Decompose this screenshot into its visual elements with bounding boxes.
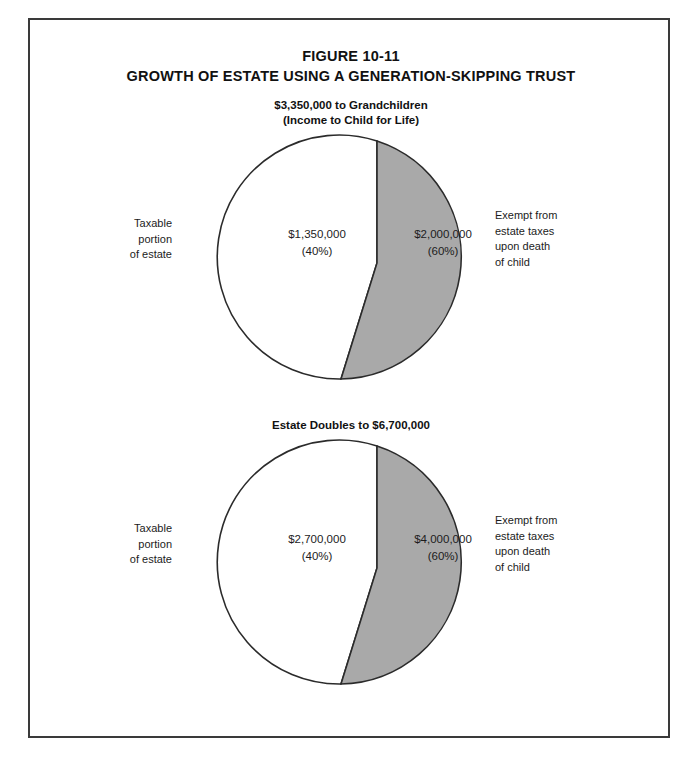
chart-1-caption: $3,350,000 to Grandchildren (Income to C… <box>30 98 672 128</box>
chart-2-right-callout: Exempt from estate taxes upon death of c… <box>495 513 557 575</box>
chart-1-caption-line2: (Income to Child for Life) <box>30 113 672 128</box>
chart-2-right-callout-line4: of child <box>495 560 557 576</box>
chart-1-left-callout-line3: of estate <box>130 247 172 263</box>
chart-2-right-callout-line2: estate taxes <box>495 529 557 545</box>
figure-number-label: FIGURE 10-11 <box>30 46 672 66</box>
chart-1-left-callout-line1: Taxable <box>130 216 172 232</box>
chart-block-2: Estate Doubles to $6,700,000 Taxable por… <box>30 418 672 699</box>
chart-2-exempt-amount: $4,000,000 <box>388 531 498 548</box>
chart-2-exempt-percent: (60%) <box>388 548 498 565</box>
chart-2-exempt-value-label: $4,000,000 (60%) <box>388 531 498 565</box>
chart-2-left-callout-line1: Taxable <box>130 521 172 537</box>
chart-1-right-callout-line2: estate taxes <box>495 224 557 240</box>
chart-1-taxable-amount: $1,350,000 <box>262 226 372 243</box>
figure-heading: FIGURE 10-11 GROWTH OF ESTATE USING A GE… <box>30 46 672 86</box>
chart-2-left-callout: Taxable portion of estate <box>130 521 172 568</box>
chart-2-taxable-percent: (40%) <box>262 548 372 565</box>
chart-2-right-callout-line3: upon death <box>495 544 557 560</box>
chart-2-taxable-value-label: $2,700,000 (40%) <box>262 531 372 565</box>
chart-2-left-callout-line3: of estate <box>130 552 172 568</box>
chart-1-taxable-percent: (40%) <box>262 243 372 260</box>
chart-1-left-callout: Taxable portion of estate <box>130 216 172 263</box>
chart-2-caption-line1: Estate Doubles to $6,700,000 <box>30 418 672 433</box>
chart-1-exempt-amount: $2,000,000 <box>388 226 498 243</box>
chart-block-1: $3,350,000 to Grandchildren (Income to C… <box>30 98 672 394</box>
chart-1-pie-svg <box>201 128 501 394</box>
chart-1-pie-area: Taxable portion of estate Exempt from es… <box>30 128 672 394</box>
chart-1-exempt-percent: (60%) <box>388 243 498 260</box>
chart-1-exempt-value-label: $2,000,000 (60%) <box>388 226 498 260</box>
chart-2-taxable-amount: $2,700,000 <box>262 531 372 548</box>
chart-1-right-callout-line1: Exempt from <box>495 208 557 224</box>
figure-title: GROWTH OF ESTATE USING A GENERATION-SKIP… <box>30 66 672 86</box>
chart-2-right-callout-line1: Exempt from <box>495 513 557 529</box>
chart-2-caption: Estate Doubles to $6,700,000 <box>30 418 672 433</box>
chart-1-taxable-value-label: $1,350,000 (40%) <box>262 226 372 260</box>
chart-2-pie-area: Taxable portion of estate Exempt from es… <box>30 433 672 699</box>
chart-1-caption-line1: $3,350,000 to Grandchildren <box>30 98 672 113</box>
chart-2-pie-svg <box>201 433 501 699</box>
chart-1-right-callout-line4: of child <box>495 255 557 271</box>
chart-1-right-callout: Exempt from estate taxes upon death of c… <box>495 208 557 270</box>
chart-2-left-callout-line2: portion <box>130 537 172 553</box>
chart-1-left-callout-line2: portion <box>130 232 172 248</box>
figure-frame: FIGURE 10-11 GROWTH OF ESTATE USING A GE… <box>28 18 670 738</box>
chart-1-right-callout-line3: upon death <box>495 239 557 255</box>
